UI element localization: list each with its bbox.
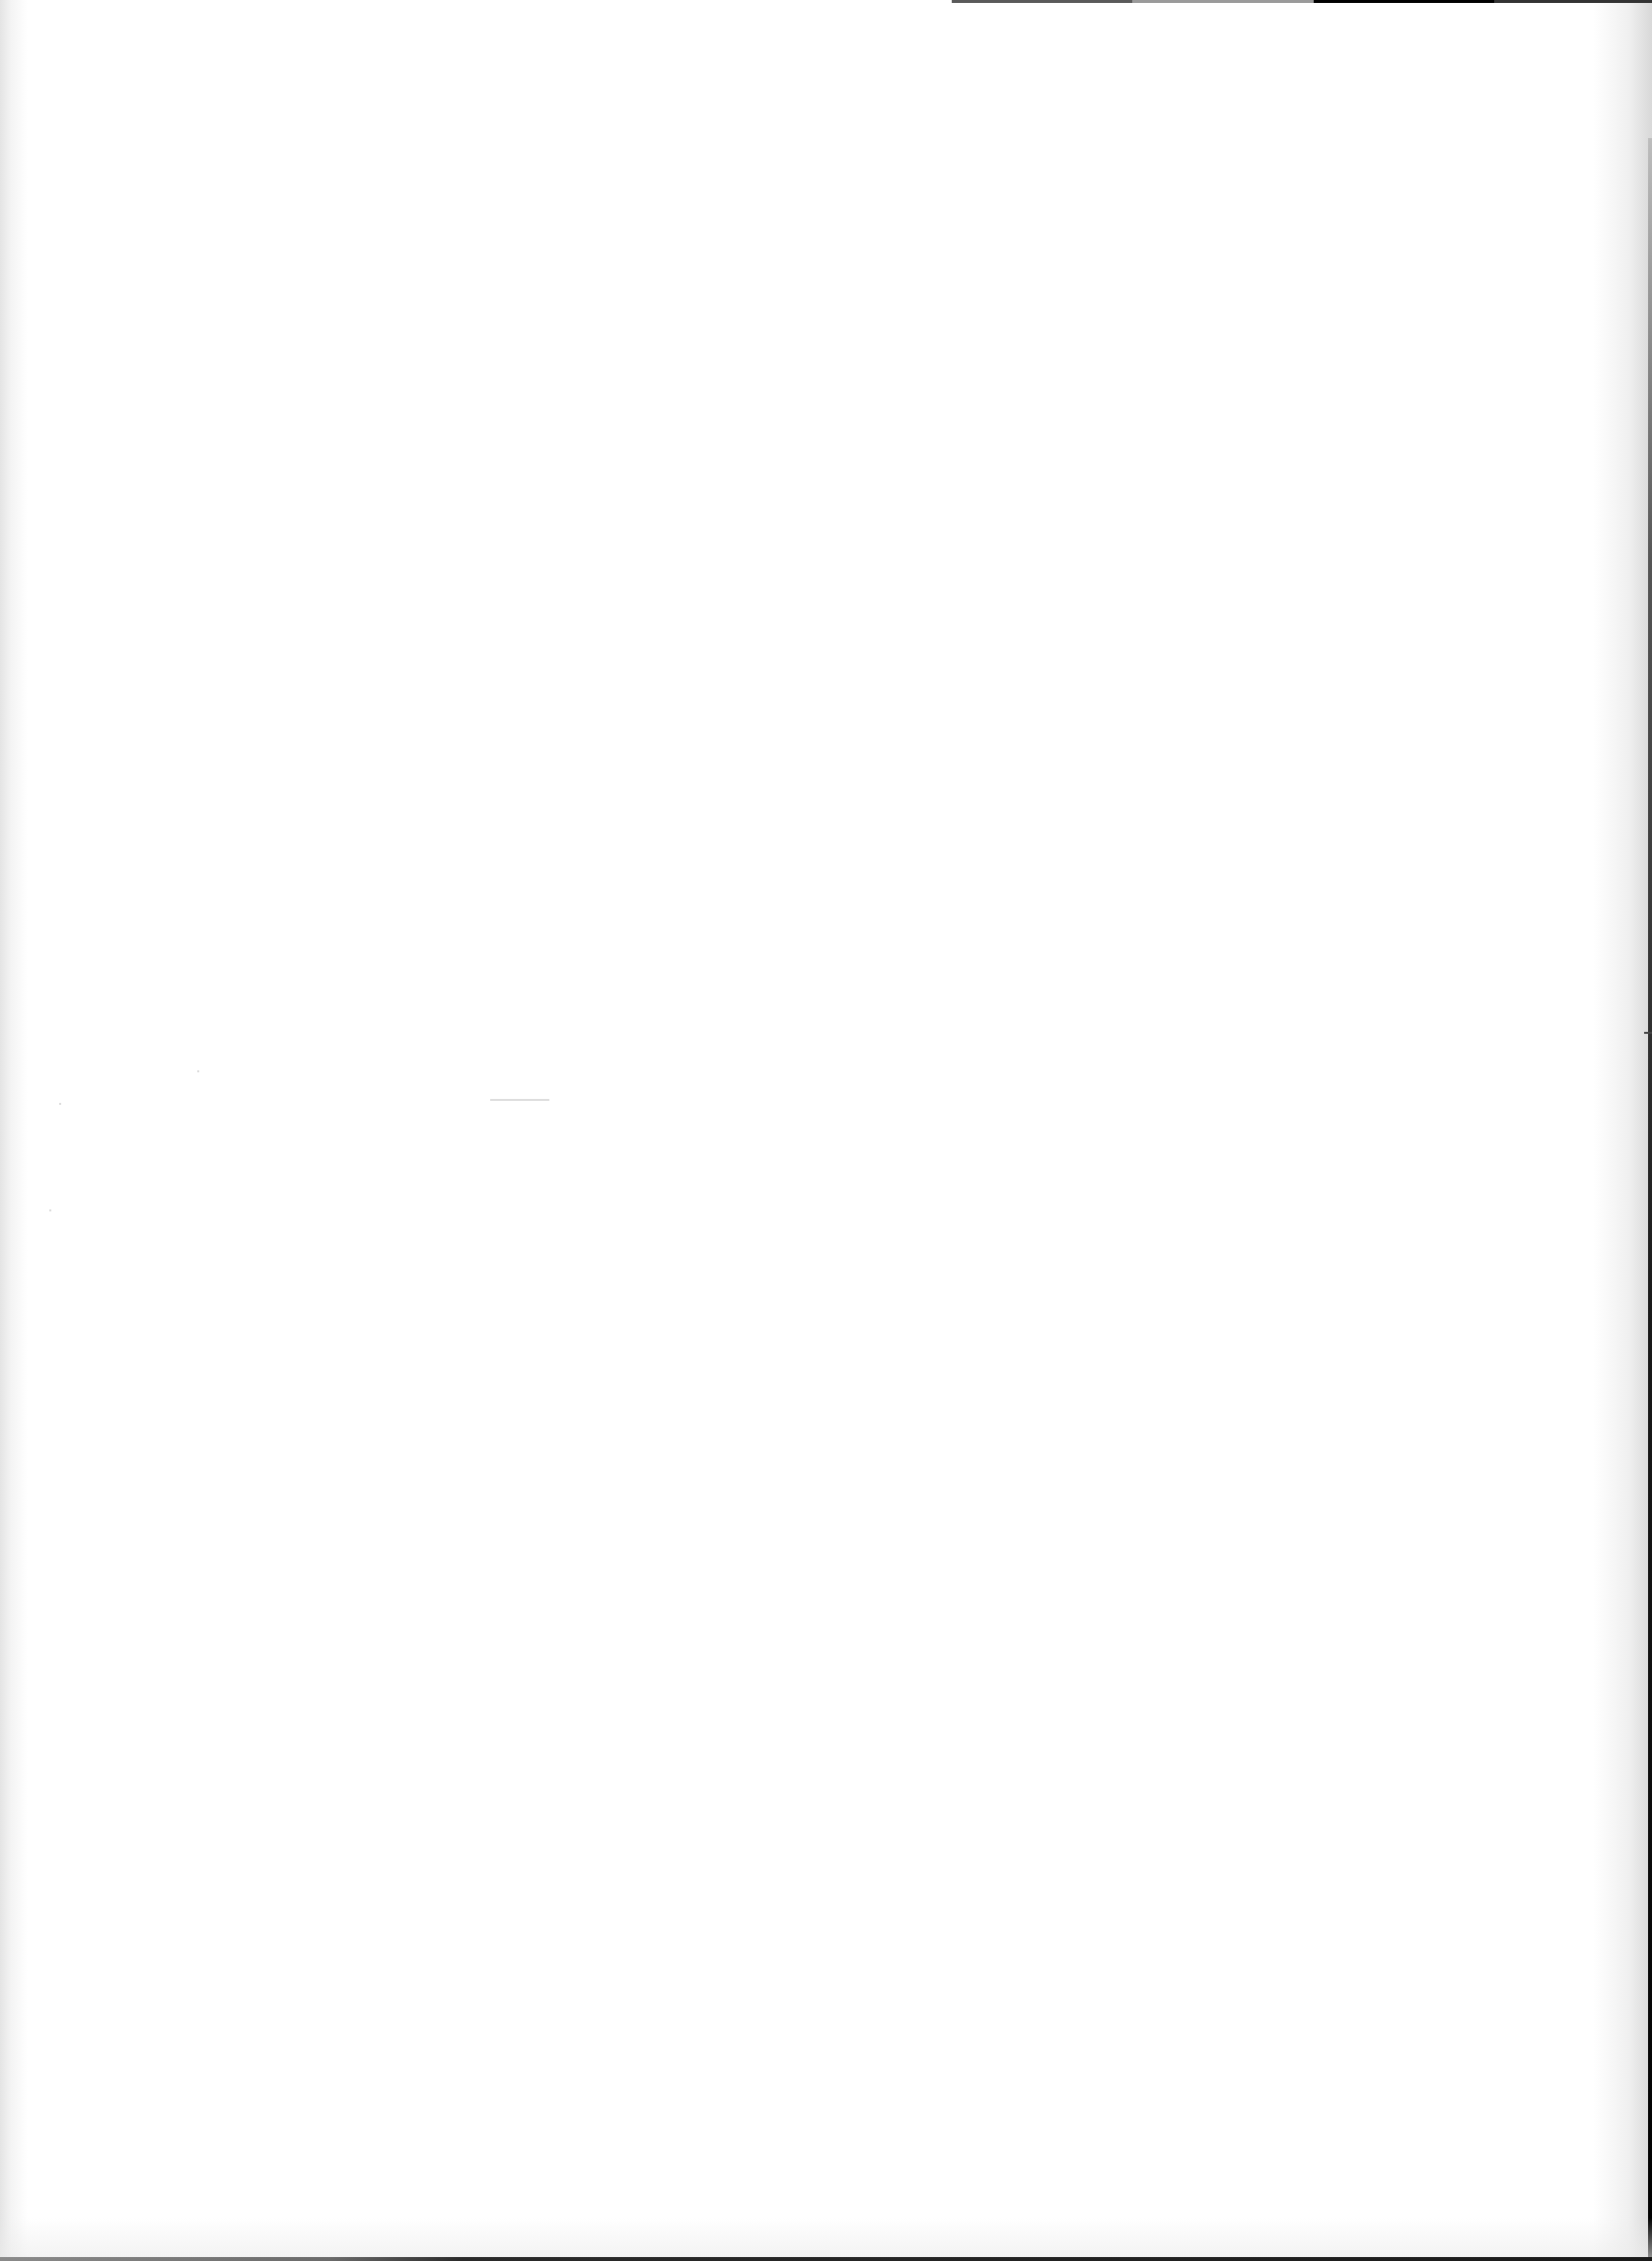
top-scan-strip-segment (1494, 0, 1652, 3)
right-edge-tick-mark (1644, 1032, 1652, 1034)
right-scan-edge-border (1648, 138, 1652, 2261)
scan-speck (49, 1209, 51, 1211)
top-scan-strip-segment (1132, 0, 1314, 3)
top-scan-strip-segment (1314, 0, 1494, 3)
bottom-scan-edge-border (0, 2257, 1652, 2261)
blank-document-page (0, 0, 1652, 2261)
scan-speck (197, 1070, 199, 1072)
right-scan-edge-shading (1593, 0, 1652, 2261)
stray-scan-mark (490, 1099, 549, 1101)
left-scan-edge-shading (0, 0, 28, 2261)
scan-speck (59, 1103, 61, 1105)
top-scan-strip-segment (952, 0, 1132, 3)
bottom-scan-edge-shading (0, 2218, 1652, 2257)
